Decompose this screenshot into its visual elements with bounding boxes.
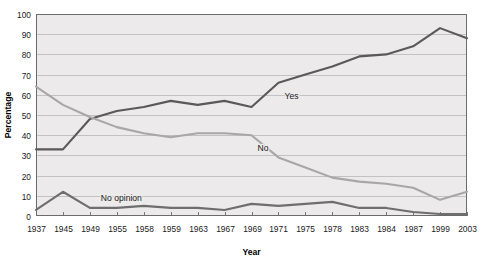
y-tick-label: 60 <box>22 91 32 101</box>
chart-canvas: 0102030405060708090100 19371945194919551… <box>0 0 494 266</box>
x-tick-label: 1967 <box>216 224 235 234</box>
x-tick-label: 1959 <box>162 224 181 234</box>
y-tick-label: 50 <box>22 111 32 121</box>
y-tick-label: 20 <box>22 172 32 182</box>
x-tick-label: 1971 <box>269 224 288 234</box>
x-axis-tick-labels: 1937194519491955195819591963196719691971… <box>27 224 477 234</box>
x-tick-label: 1987 <box>404 224 423 234</box>
x-tick-label: 1983 <box>350 224 369 234</box>
y-tick-label: 40 <box>22 131 32 141</box>
x-tick-label: 1949 <box>81 224 100 234</box>
line-chart: 0102030405060708090100 19371945194919551… <box>0 0 494 266</box>
series-label-no-opinion: No opinion <box>101 193 142 203</box>
y-tick-label: 80 <box>22 50 32 60</box>
x-tick-label: 1975 <box>296 224 315 234</box>
x-tick-label: 1955 <box>108 224 127 234</box>
series-label-yes: Yes <box>284 91 298 101</box>
y-tick-label: 30 <box>22 151 32 161</box>
y-tick-label: 70 <box>22 71 32 81</box>
x-tick-label: 1937 <box>27 224 46 234</box>
y-tick-label: 90 <box>22 30 32 40</box>
x-tick-label: 1999 <box>431 224 450 234</box>
x-tick-label: 1958 <box>135 224 154 234</box>
x-tick-label: 1978 <box>323 224 342 234</box>
y-tick-label: 100 <box>17 10 31 20</box>
x-tick-label: 1969 <box>243 224 262 234</box>
x-tick-label: 2003 <box>458 224 477 234</box>
x-tick-label: 1945 <box>54 224 73 234</box>
y-axis-title: Percentage <box>3 92 13 139</box>
x-tick-label: 1984 <box>377 224 396 234</box>
y-tick-label: 0 <box>26 212 31 222</box>
y-tick-label: 10 <box>22 192 32 202</box>
x-axis-title: Year <box>242 247 261 257</box>
series-label-no: No <box>258 143 269 153</box>
x-tick-label: 1963 <box>189 224 208 234</box>
